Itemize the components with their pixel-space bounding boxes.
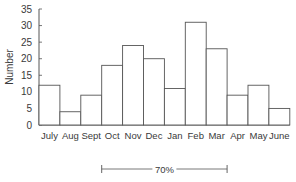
x-axis-labels: JulyAugSeptOctNovDecJanFebMarAprMayJune <box>41 130 290 141</box>
bar-may <box>248 85 269 125</box>
y-tick-label: 15 <box>21 70 33 81</box>
y-tick-label: 20 <box>21 53 33 64</box>
x-tick-label: Sept <box>81 130 101 141</box>
bar-feb <box>185 22 206 125</box>
x-tick-label: Nov <box>125 130 142 141</box>
y-tick-label: 10 <box>21 86 33 97</box>
y-tick-label: 5 <box>26 103 32 114</box>
bar-nov <box>123 45 144 125</box>
y-tick-label: 35 <box>21 4 33 15</box>
x-tick-label: Apr <box>230 130 245 141</box>
x-tick-label: Mar <box>208 130 224 141</box>
y-tick-label: 25 <box>21 37 33 48</box>
y-tick-label: 0 <box>26 120 32 131</box>
bar-mar <box>206 49 227 125</box>
percentage-bracket: 70% <box>102 164 227 175</box>
x-tick-label: May <box>249 130 267 141</box>
bars <box>39 22 290 125</box>
x-tick-label: June <box>269 130 290 141</box>
bar-apr <box>227 95 248 125</box>
bar-june <box>269 108 290 125</box>
bar-sept <box>81 95 102 125</box>
bar-dec <box>144 59 165 125</box>
x-tick-label: Oct <box>105 130 120 141</box>
x-tick-label: Feb <box>188 130 204 141</box>
bar-aug <box>60 112 81 125</box>
bar-jan <box>164 89 185 125</box>
x-tick-label: Aug <box>62 130 79 141</box>
bracket-label: 70% <box>155 164 175 175</box>
bar-oct <box>102 65 123 125</box>
bar-july <box>39 85 60 125</box>
x-tick-label: Jan <box>167 130 182 141</box>
x-tick-label: Dec <box>145 130 162 141</box>
x-tick-label: July <box>41 130 58 141</box>
y-tick-label: 30 <box>21 20 33 31</box>
histogram-chart: 05101520253035 JulyAugSeptOctNovDecJanFe… <box>0 0 296 182</box>
y-axis-label: Number <box>4 49 15 85</box>
